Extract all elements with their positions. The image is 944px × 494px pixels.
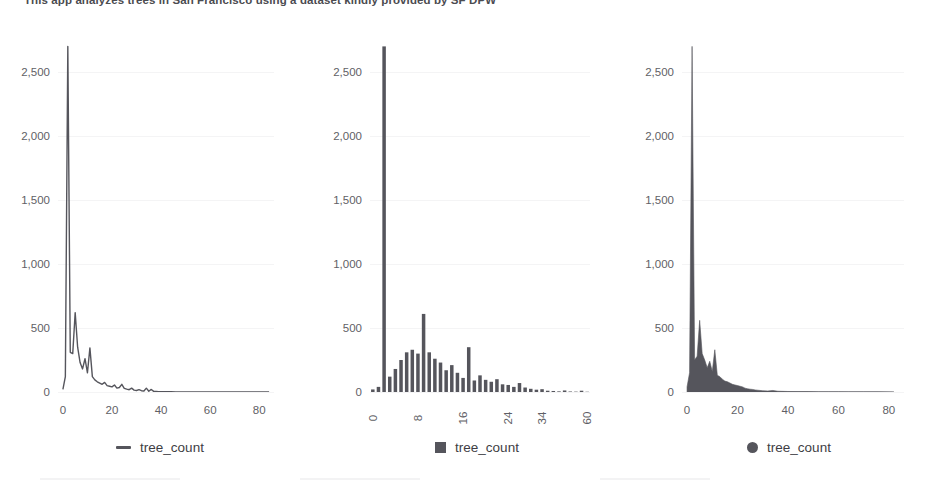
- x-axis-tick-label: 0: [60, 404, 66, 416]
- y-axis-tick-label: 2,500: [333, 66, 362, 78]
- chart-panel-area: 05001,0001,5002,0002,500 020406080 tree_…: [634, 22, 944, 482]
- line-marker-icon: [116, 446, 131, 449]
- y-axis-tick-label: 0: [44, 386, 50, 398]
- bar: [563, 390, 567, 392]
- chart3-area-series: [682, 40, 904, 392]
- x-axis-tick-label: 60: [581, 412, 593, 425]
- bar: [439, 363, 443, 392]
- chart3-plot-area: [682, 40, 904, 392]
- chart1-legend-label: tree_count: [140, 440, 204, 455]
- bar: [394, 369, 398, 392]
- x-axis-tick-label: 40: [155, 404, 168, 416]
- x-axis-tick-label: 60: [204, 404, 217, 416]
- charts-row: 05001,0001,5002,0002,500 020406080 tree_…: [0, 22, 944, 482]
- bar: [427, 352, 431, 392]
- bar: [411, 350, 415, 392]
- x-axis-tick-label: 20: [731, 404, 744, 416]
- bar: [580, 391, 584, 392]
- y-axis-tick-label: 2,000: [645, 130, 674, 142]
- chart2-legend: tree_count: [320, 440, 634, 455]
- y-axis-tick-label: 1,500: [333, 194, 362, 206]
- y-axis-tick-label: 1,000: [333, 258, 362, 270]
- bar: [399, 360, 403, 392]
- bar: [495, 379, 499, 392]
- y-axis-tick-label: 2,500: [645, 66, 674, 78]
- chart2-plot-area: [370, 40, 590, 392]
- bar: [546, 391, 550, 392]
- chart2-bar-series: [370, 40, 590, 392]
- bar: [523, 388, 527, 392]
- bar: [478, 375, 482, 392]
- bar: [506, 385, 510, 392]
- y-axis-tick-label: 2,000: [333, 130, 362, 142]
- gridline: [370, 392, 590, 393]
- chart3-y-axis: 05001,0001,5002,0002,500: [634, 40, 680, 392]
- bar: [473, 380, 477, 392]
- bar: [388, 377, 392, 392]
- y-axis-tick-label: 2,000: [21, 130, 50, 142]
- y-axis-tick-label: 1,000: [645, 258, 674, 270]
- bar: [450, 365, 454, 392]
- chart2-legend-label: tree_count: [455, 440, 519, 455]
- bar: [501, 384, 505, 392]
- chart1-y-axis: 05001,0001,5002,0002,500: [0, 40, 56, 392]
- y-axis-tick-label: 2,500: [21, 66, 50, 78]
- bar: [444, 370, 448, 392]
- chart1-line-series: [58, 40, 274, 392]
- bar: [512, 387, 516, 392]
- trees-app-chart-page: This app analyzes trees in San Francisco…: [0, 0, 944, 494]
- bar: [569, 391, 573, 392]
- bar: [540, 389, 544, 392]
- bar: [490, 382, 494, 392]
- bar: [377, 387, 381, 392]
- x-axis-tick-label: 0: [684, 404, 690, 416]
- bar: [467, 347, 471, 392]
- bar: [422, 314, 426, 392]
- bar: [382, 46, 386, 392]
- circle-marker-icon: [747, 442, 758, 453]
- bar: [484, 380, 488, 392]
- y-axis-tick-label: 500: [343, 322, 362, 334]
- bar: [535, 390, 539, 392]
- bar: [371, 389, 375, 392]
- x-axis-tick-label: 60: [832, 404, 845, 416]
- y-axis-tick-label: 1,500: [21, 194, 50, 206]
- bar: [529, 389, 533, 392]
- bar: [461, 378, 465, 392]
- chart-panel-bar: 05001,0001,5002,0002,500 0816243460 tree…: [320, 22, 634, 482]
- page-bottom-artifacts: [0, 478, 944, 488]
- square-marker-icon: [435, 442, 446, 453]
- y-axis-tick-label: 0: [668, 386, 674, 398]
- y-axis-tick-label: 1,500: [645, 194, 674, 206]
- chart1-legend: tree_count: [0, 440, 320, 455]
- chart2-y-axis: 05001,0001,5002,0002,500: [320, 40, 368, 392]
- chart3-legend-label: tree_count: [767, 440, 831, 455]
- bar: [552, 391, 556, 392]
- y-axis-tick-label: 1,000: [21, 258, 50, 270]
- y-axis-tick-label: 500: [31, 322, 50, 334]
- x-axis-tick-label: 0: [367, 415, 379, 421]
- x-axis-tick-label: 80: [253, 404, 266, 416]
- x-axis-tick-label: 24: [502, 412, 514, 425]
- bar: [416, 354, 420, 392]
- gridline: [58, 392, 274, 393]
- chart1-plot-area: [58, 40, 274, 392]
- bar: [456, 373, 460, 392]
- x-axis-tick-label: 16: [457, 412, 469, 425]
- x-axis-tick-label: 20: [106, 404, 119, 416]
- chart-panel-line: 05001,0001,5002,0002,500 020406080 tree_…: [0, 22, 320, 482]
- intro-banner: This app analyzes trees in San Francisco…: [24, 0, 924, 8]
- gridline: [682, 392, 904, 393]
- y-axis-tick-label: 500: [655, 322, 674, 334]
- bar: [405, 352, 409, 392]
- bar: [433, 359, 437, 392]
- x-axis-tick-label: 8: [412, 415, 424, 421]
- intro-text: This app analyzes trees in San Francisco…: [24, 0, 924, 8]
- bar: [557, 391, 561, 392]
- y-axis-tick-label: 0: [356, 386, 362, 398]
- x-axis-tick-label: 40: [782, 404, 795, 416]
- chart3-legend: tree_count: [634, 440, 944, 455]
- x-axis-tick-label: 80: [882, 404, 895, 416]
- bar: [518, 383, 522, 392]
- x-axis-tick-label: 34: [536, 412, 548, 425]
